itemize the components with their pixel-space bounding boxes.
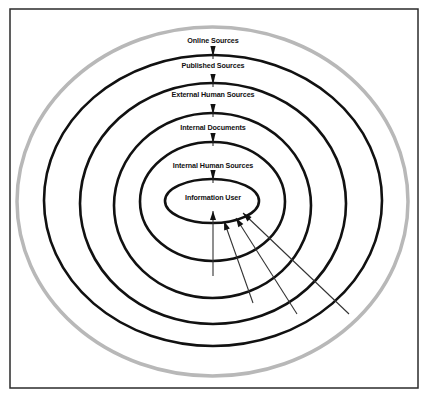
- label-published-sources: Published Sources: [181, 61, 244, 70]
- label-information-user: Information User: [185, 193, 241, 202]
- label-online-sources: Online Sources: [187, 36, 238, 45]
- label-internal-documents: Internal Documents: [180, 123, 245, 132]
- label-external-human-sources: External Human Sources: [172, 90, 255, 99]
- arrowhead-icon: [210, 211, 216, 220]
- inbound-arrow-line: [224, 221, 253, 303]
- information-sources-diagram: Online Sources Published Sources Externa…: [0, 0, 427, 397]
- ring-external-human-sources: [80, 83, 346, 324]
- label-internal-human-sources: Internal Human Sources: [173, 161, 254, 170]
